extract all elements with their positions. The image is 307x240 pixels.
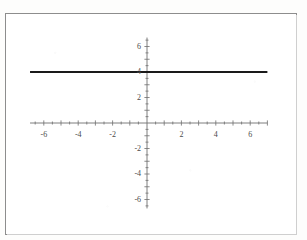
x-tick-label: 4 xyxy=(214,131,218,139)
y-tick-label: 4 xyxy=(137,68,141,76)
x-tick-label: 2 xyxy=(179,131,183,139)
y-tick-label: 6 xyxy=(137,43,141,51)
x-tick-label: -6 xyxy=(41,131,47,139)
figure-frame xyxy=(5,13,297,235)
figure-root: -6-4-2246642-2-4-6 xyxy=(0,0,307,240)
y-tick-label: -6 xyxy=(135,196,141,204)
y-tick-label: -2 xyxy=(135,145,141,153)
y-tick-label: 2 xyxy=(137,94,141,102)
x-tick-label: -4 xyxy=(75,131,81,139)
y-tick-label: -4 xyxy=(135,170,141,178)
x-tick-label: -2 xyxy=(109,131,115,139)
x-tick-label: 6 xyxy=(248,131,252,139)
